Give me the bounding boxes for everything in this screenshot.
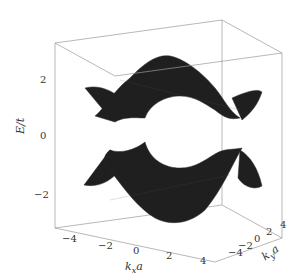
y-tick: 4 bbox=[280, 220, 286, 230]
y-tick: −2 bbox=[238, 241, 253, 251]
x-tick: −4 bbox=[62, 234, 77, 244]
z-tick: −2 bbox=[34, 190, 49, 200]
y-tick: 0 bbox=[254, 234, 260, 244]
z-axis-label: E/t bbox=[14, 118, 27, 134]
band-structure-figure: 2 0 −2 E/t −4 −2 0 2 4 kxa −4 −2 0 2 4 k… bbox=[0, 0, 302, 280]
y-tick: 2 bbox=[266, 227, 272, 237]
x-tick: −2 bbox=[98, 241, 113, 251]
x-tick: 4 bbox=[200, 256, 206, 266]
z-tick: 0 bbox=[40, 131, 46, 141]
x-axis-label: kxa bbox=[125, 260, 143, 275]
z-tick: 2 bbox=[40, 75, 46, 85]
x-tick: 0 bbox=[133, 246, 139, 256]
x-tick: 2 bbox=[166, 251, 172, 261]
